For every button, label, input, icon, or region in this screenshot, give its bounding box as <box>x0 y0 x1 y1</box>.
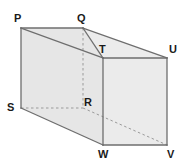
vertex-label-p: P <box>14 13 21 24</box>
rectangular-prism-figure <box>0 0 185 165</box>
diagram-canvas: PQTUSRWV <box>0 0 185 165</box>
vertex-label-u: U <box>169 44 177 55</box>
vertex-label-q: Q <box>77 13 86 24</box>
vertex-label-s: S <box>7 102 14 113</box>
face-right <box>103 58 167 145</box>
vertex-label-w: W <box>98 149 108 160</box>
vertex-label-t: T <box>99 44 106 55</box>
vertex-label-v: V <box>167 149 174 160</box>
vertex-label-r: R <box>84 97 92 108</box>
face-front-left <box>21 28 103 145</box>
